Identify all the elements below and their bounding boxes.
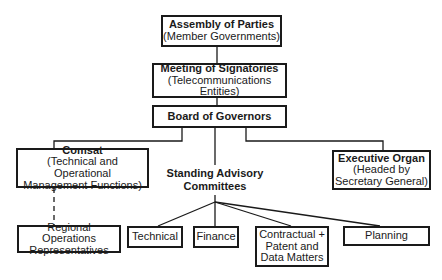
contractual-committee-box: Contractual + Patent and Data Matters	[255, 226, 329, 267]
contractual-line-1: Contractual +	[259, 229, 325, 241]
finance-label: Finance	[196, 231, 235, 243]
standing-line-2: Committees	[150, 180, 280, 193]
standing-line-1: Standing Advisory	[150, 167, 280, 180]
regional-operations-box: Regional Operations Representatives	[17, 225, 121, 253]
standing-advisory-committees-label: Standing Advisory Committees	[150, 167, 280, 192]
meeting-title: Meeting of Signatories	[161, 63, 279, 75]
technical-label: Technical	[132, 231, 178, 243]
planning-committee-box: Planning	[343, 226, 430, 246]
board-title: Board of Governors	[168, 111, 272, 123]
assembly-of-parties-box: Assembly of Parties (Member Governments)	[161, 15, 282, 47]
comsat-subtitle-1: (Technical and Operational	[18, 156, 147, 179]
regional-line-1: Regional Operations	[19, 222, 119, 245]
executive-organ-box: Executive Organ (Headed by Secretary Gen…	[332, 150, 431, 190]
meeting-subtitle-2: Entities)	[200, 86, 240, 98]
finance-committee-box: Finance	[193, 226, 239, 248]
meeting-of-signatories-box: Meeting of Signatories (Telecommunicatio…	[152, 63, 287, 98]
planning-label: Planning	[365, 230, 408, 242]
comsat-box: Comsat (Technical and Operational Manage…	[16, 148, 149, 188]
executive-subtitle-2: Secretary General)	[335, 176, 428, 188]
technical-committee-box: Technical	[127, 226, 183, 248]
regional-line-2: Representatives	[29, 245, 109, 257]
contractual-line-3: Data Matters	[261, 252, 324, 264]
comsat-subtitle-2: Management Functions)	[23, 180, 142, 192]
board-of-governors-box: Board of Governors	[152, 105, 287, 128]
assembly-subtitle: (Member Governments)	[163, 31, 280, 43]
